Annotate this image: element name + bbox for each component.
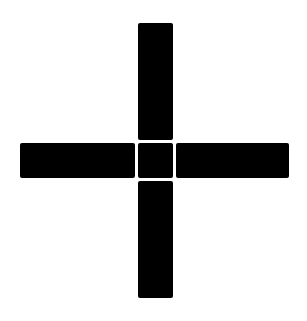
cross-top-arm	[138, 23, 173, 140]
cross-right-arm	[176, 143, 289, 178]
cross-center-square	[138, 143, 173, 178]
cross-figure	[0, 0, 307, 321]
cross-bottom-arm	[138, 181, 173, 298]
cross-left-arm	[20, 143, 135, 178]
